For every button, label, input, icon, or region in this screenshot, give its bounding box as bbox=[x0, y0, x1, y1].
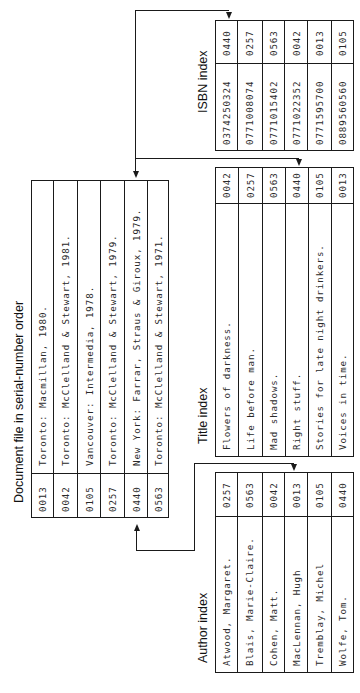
isbn-serial: 0042 bbox=[292, 30, 301, 56]
isbn-number: 0889560560 bbox=[338, 81, 347, 145]
book-title: Right stuff. bbox=[292, 373, 301, 450]
arrow-to-author-index-icon bbox=[291, 464, 297, 471]
connector-trunk-top bbox=[135, 10, 136, 173]
title-serial: 0013 bbox=[338, 172, 347, 198]
isbn-number: 0771022352 bbox=[292, 81, 301, 145]
document-imprint: Toronto: Macmillan, 1980. bbox=[38, 305, 47, 466]
connector-to-title bbox=[135, 158, 299, 159]
document-serial: 0257 bbox=[108, 486, 117, 512]
title-serial: 0105 bbox=[315, 172, 324, 198]
document-serial: 0440 bbox=[132, 486, 141, 512]
author-name: Tremblay, Michel bbox=[315, 563, 324, 666]
isbn-serial: 0013 bbox=[315, 30, 324, 56]
connector-bottom-horizontal bbox=[136, 550, 195, 551]
arrow-to-document-file-icon bbox=[133, 171, 139, 178]
arrow-to-isbn-index-icon bbox=[226, 12, 232, 19]
isbn-serial: 0440 bbox=[222, 30, 231, 56]
isbn-number: 0374250324 bbox=[222, 81, 231, 145]
document-serial: 0013 bbox=[38, 486, 47, 512]
arrow-to-title-index-icon bbox=[296, 159, 302, 166]
author-index-title: Author index bbox=[197, 593, 210, 663]
document-file-table bbox=[31, 180, 169, 518]
title-serial: 0563 bbox=[269, 172, 278, 198]
document-imprint: Toronto: McClelland & Stewart, 1979. bbox=[108, 234, 117, 466]
author-name: Wolfe, Tom. bbox=[338, 595, 347, 666]
isbn-serial: 0563 bbox=[269, 30, 278, 56]
isbn-index-table bbox=[215, 20, 354, 151]
title-index-table bbox=[215, 167, 354, 457]
book-title: Stories for late night drinkers. bbox=[315, 244, 324, 450]
author-name: Atwood, Margaret. bbox=[222, 557, 231, 666]
connector-from-author-vertical bbox=[194, 463, 195, 551]
author-serial: 0013 bbox=[292, 482, 301, 508]
isbn-serial: 0257 bbox=[245, 30, 254, 56]
author-index-table bbox=[215, 472, 354, 673]
author-name: Cohen, Matt. bbox=[269, 589, 278, 666]
isbn-number: 0771015402 bbox=[269, 81, 278, 145]
book-title: Flowers of darkness. bbox=[222, 321, 231, 450]
title-index-title: Title index bbox=[197, 387, 210, 444]
document-imprint: Vancouver: Intermedia, 1978. bbox=[85, 286, 94, 466]
author-serial: 0257 bbox=[222, 482, 231, 508]
document-imprint: Toronto: McClelland & Stewart, 1971. bbox=[154, 234, 163, 466]
isbn-number: 0771595700 bbox=[315, 81, 324, 145]
author-serial: 0042 bbox=[269, 482, 278, 508]
document-serial: 0105 bbox=[85, 486, 94, 512]
title-serial: 0440 bbox=[292, 172, 301, 198]
document-file-title: Document file in serial-number order bbox=[13, 301, 26, 503]
title-serial: 0042 bbox=[222, 172, 231, 198]
author-serial: 0105 bbox=[315, 482, 324, 508]
author-name: Blais, Marie-Claire. bbox=[245, 537, 254, 666]
title-serial: 0257 bbox=[246, 172, 255, 198]
book-title: Voices in time. bbox=[338, 354, 347, 450]
author-serial: 0440 bbox=[338, 482, 347, 508]
document-imprint: New York: Farrar, Straus & Giroux, 1979. bbox=[132, 209, 141, 466]
isbn-index-title: ISBN index bbox=[197, 50, 210, 113]
document-serial: 0042 bbox=[61, 486, 70, 512]
author-serial: 0563 bbox=[245, 482, 254, 508]
isbn-serial: 0105 bbox=[338, 30, 347, 56]
document-imprint: Toronto: McClelland & Stewart, 1981. bbox=[61, 234, 70, 466]
arrow-up-to-document-file-icon bbox=[134, 524, 140, 531]
isbn-number: 0771008074 bbox=[245, 81, 254, 145]
book-title: Mad shadows. bbox=[269, 373, 278, 450]
document-serial: 0563 bbox=[154, 486, 163, 512]
book-title: Life before man. bbox=[246, 347, 255, 450]
indexing-diagram: Document file in serial-number order 001… bbox=[0, 0, 360, 693]
connector-to-author bbox=[194, 463, 294, 464]
author-name: MacLennan, Hugh bbox=[292, 570, 301, 666]
connector-to-isbn bbox=[135, 10, 229, 11]
